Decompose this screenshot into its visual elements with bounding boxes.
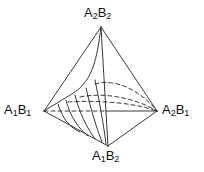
subscript-b: 2 [106,11,111,21]
tetrahedron-diagram [0,0,204,172]
vertex-label-right: A2B1 [162,103,189,118]
vertex-label-top: A2B2 [84,6,111,21]
edge-right-bottom [108,111,157,146]
subscript-b: 2 [114,154,119,164]
subscript-b: 1 [184,108,189,118]
edge-top-bottom [101,27,108,146]
label-a: A [4,102,13,117]
label-a: A [92,148,101,163]
label-a: A [84,5,93,20]
ruling-curve-1 [58,104,80,132]
subscript-b: 1 [26,108,31,118]
vertex-label-bottom: A1B2 [92,149,119,164]
edge-top-right [101,27,157,111]
edge-left-bottom [44,111,108,146]
vertex-label-left: A1B1 [4,103,31,118]
label-a: A [162,102,171,117]
dashed-arc-3 [68,101,157,111]
